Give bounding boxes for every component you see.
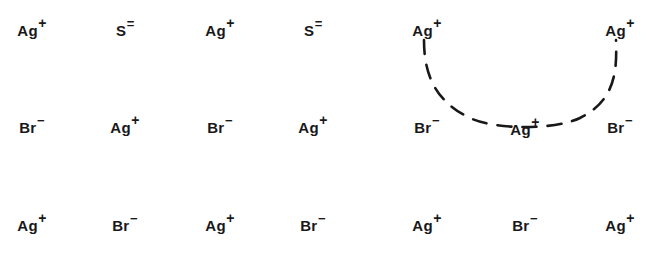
ion-label-r1c5: Ag+ [412,23,441,38]
ion-symbol: Br [207,119,224,136]
ion-charge: = [127,16,134,31]
ion-charge: + [433,15,441,31]
ion-charge: + [433,210,441,226]
ion-charge: − [432,113,440,128]
ion-label-r1c1: Ag+ [17,23,46,38]
ion-symbol: S [116,22,126,39]
ion-charge: + [531,114,539,130]
ion-label-r1c2: S= [116,23,134,38]
ion-charge: + [626,15,634,31]
ion-charge: + [38,210,46,226]
ion-label-r2c1: Br− [19,120,44,135]
ion-symbol: Ag [205,217,225,234]
ion-label-r3c1: Ag+ [17,218,46,233]
ion-symbol: S [304,22,314,39]
crystal-lattice-figure: Ag+ S= Ag+ S= Ag+ Ag+ Br− Ag+ Br− Ag+ Br… [0,0,660,264]
ion-label-r1c3: Ag+ [205,23,234,38]
ion-symbol: Ag [412,217,432,234]
ion-symbol: Br [300,217,317,234]
ion-symbol: Br [19,119,36,136]
ion-charge: + [319,112,327,128]
ion-symbol: Ag [605,22,625,39]
ion-charge: − [625,113,633,128]
ion-charge: − [130,211,138,226]
ion-symbol: Br [414,119,431,136]
ion-label-r1c7: Ag+ [605,23,634,38]
ion-label-r3c7: Ag+ [605,218,634,233]
lattice-annotation-layer [0,0,660,264]
ion-symbol: Ag [412,22,432,39]
ion-symbol: Ag [17,217,37,234]
ion-label-r2c7: Br− [607,120,632,135]
ion-charge: − [37,113,45,128]
ion-label-r3c4: Br− [300,218,325,233]
ion-symbol: Ag [510,121,530,138]
ion-symbol: Ag [110,119,130,136]
dashed-bond-arc [424,40,616,127]
ion-label-r3c3: Ag+ [205,218,234,233]
ion-label-r3c6: Br− [512,218,537,233]
ion-label-r1c4: S= [304,23,322,38]
ion-symbol: Ag [17,22,37,39]
ion-label-r2c5: Br− [414,120,439,135]
ion-symbol: Ag [298,119,318,136]
ion-symbol: Br [607,119,624,136]
ion-label-r3c2: Br− [112,218,137,233]
ion-label-r2c6: Ag+ [510,122,539,137]
ion-symbol: Br [512,217,529,234]
ion-charge: − [225,113,233,128]
ion-charge: + [226,210,234,226]
ion-label-r2c4: Ag+ [298,120,327,135]
ion-charge: + [226,15,234,31]
ion-label-r3c5: Ag+ [412,218,441,233]
ion-charge: − [318,211,326,226]
ion-charge: − [530,211,538,226]
ion-symbol: Ag [605,217,625,234]
ion-symbol: Ag [205,22,225,39]
ion-label-r2c2: Ag+ [110,120,139,135]
ion-charge: = [315,16,322,31]
ion-symbol: Br [112,217,129,234]
ion-charge: + [131,112,139,128]
ion-label-r2c3: Br− [207,120,232,135]
ion-charge: + [38,15,46,31]
ion-charge: + [626,210,634,226]
